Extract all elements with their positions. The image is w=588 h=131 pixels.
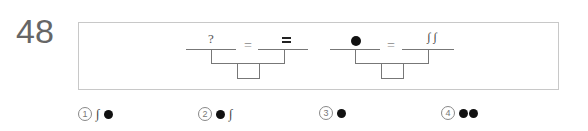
dot-icon [216, 110, 225, 119]
equals-sign: = [387, 38, 395, 54]
choice-number: 1 [78, 107, 92, 121]
equals-sign: = [244, 38, 252, 54]
dot-icon [104, 110, 113, 119]
choice-2[interactable]: 2 ∫ [198, 106, 233, 122]
dot-icon [459, 109, 468, 118]
question-box [78, 22, 559, 90]
answer-box [381, 63, 404, 79]
choice-number: 4 [441, 106, 455, 120]
choice-number: 3 [319, 106, 333, 120]
left-symbol: ? [205, 31, 217, 47]
choice-3[interactable]: 3 [319, 106, 346, 120]
double-bar-symbol [282, 41, 291, 43]
bracket-right [428, 49, 429, 63]
choice-4[interactable]: 4 [441, 106, 478, 120]
bracket-right [284, 49, 285, 63]
bracket-left [211, 49, 212, 63]
dot-icon [469, 109, 478, 118]
choice-number: 2 [198, 107, 212, 121]
dot-symbol [351, 36, 361, 46]
dot-icon [337, 109, 346, 118]
double-bar-symbol [282, 37, 291, 39]
answer-box [237, 63, 260, 79]
question-number: 48 [16, 12, 54, 51]
integral-icon: ∫ [96, 106, 100, 122]
choice-1[interactable]: 1 ∫ [78, 106, 113, 122]
integral-symbols: ∫ ∫ [420, 30, 444, 45]
right-line [258, 49, 308, 50]
bracket-left [355, 49, 356, 63]
integral-icon: ∫ [229, 106, 233, 122]
